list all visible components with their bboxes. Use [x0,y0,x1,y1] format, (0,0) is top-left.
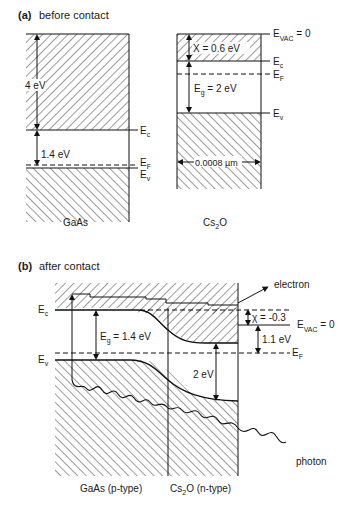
cs2o-ec-label: Ec [273,56,284,69]
panel-b-title: after contact [39,260,100,272]
gaas-before-block [26,34,138,222]
cs2o-evac-label: EVAC = 0 [273,28,311,42]
gaas-material-label: GaAs [63,217,88,228]
gaas-gap-label: 1.4 eV [41,149,70,160]
cs2o-ev-label: Ev [273,108,284,121]
after-evac-label: EVAC = 0 [297,319,335,333]
cs2o-affinity-label: X = 0.6 eV [193,43,240,54]
barrier-label: 1.1 eV [262,334,291,345]
affinity-label: χ = -0.3 [252,312,286,323]
gaas-ev-label: Ev [140,169,151,182]
panel-a-tag: (a) [18,9,32,21]
cs2o-ntype-label: Cs2O (n-type) [170,483,231,496]
cs2o-thickness-label: 0.0008 µm [195,158,238,168]
after-cs2o-gap-label: 2 eV [193,369,214,380]
gaas-ec-label: Ec [140,125,151,138]
photon-label: photon [296,456,327,467]
after-ef-label: EF [292,347,303,360]
gaas-affinity-label: 4 eV [25,80,46,91]
after-gaas-gap-label: Eg = 1.4 eV [100,331,151,345]
after-ec-label: Ec [38,304,49,317]
cs2o-material-label: Cs2O [203,217,227,230]
band-diagram: (a) before contact 4 eV 1.4 eV Ec EF Ev … [0,0,359,516]
after-ev-label: Ev [38,354,49,367]
gaas-ptype-label: GaAs (p-type) [80,483,142,494]
panel-b-tag: (b) [18,260,32,272]
cs2o-ef-label: EF [273,69,284,82]
electron-label: electron [274,279,310,290]
panel-a-title: before contact [39,9,109,21]
